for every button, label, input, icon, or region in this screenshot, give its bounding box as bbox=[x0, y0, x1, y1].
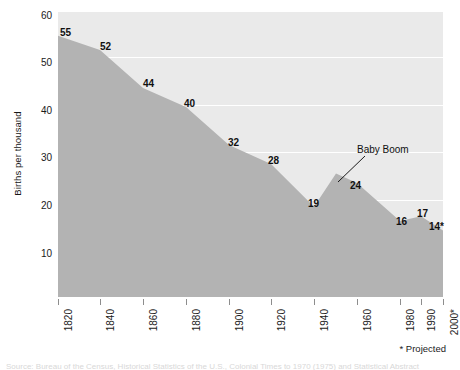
data-label-1940: 19 bbox=[308, 198, 319, 209]
data-label-1880: 40 bbox=[184, 98, 195, 109]
data-label-1920: 28 bbox=[268, 155, 279, 166]
x-tick-mark-1820 bbox=[58, 299, 59, 305]
data-label-1900: 32 bbox=[228, 137, 239, 148]
annotation-baby-boom: Baby Boom bbox=[357, 144, 409, 155]
source-note: Source: Bureau of the Census, Historical… bbox=[6, 362, 456, 370]
x-tick-mark-1960 bbox=[357, 299, 358, 305]
data-label-1840: 52 bbox=[100, 41, 111, 52]
data-label-1860: 44 bbox=[143, 78, 154, 89]
x-tick-label-1860: 1860 bbox=[148, 309, 159, 355]
x-tick-label-1960: 1960 bbox=[362, 309, 373, 355]
data-label-2000: 14* bbox=[429, 221, 444, 232]
x-tick-label-1880: 1880 bbox=[191, 309, 202, 355]
footnote-projected: * Projected bbox=[400, 343, 446, 354]
x-tick-label-2000: 2000* bbox=[449, 309, 460, 355]
x-tick-mark-2000 bbox=[443, 299, 444, 305]
x-tick-mark-1940 bbox=[314, 299, 315, 305]
x-tick-mark-1900 bbox=[229, 299, 230, 305]
data-label-1980: 16 bbox=[396, 216, 407, 227]
x-tick-label-1920: 1920 bbox=[276, 309, 287, 355]
data-label-1960: 24 bbox=[350, 180, 361, 191]
y-tick-label-60: 60 bbox=[12, 10, 52, 21]
y-tick-label-20: 20 bbox=[12, 200, 52, 211]
x-tick-mark-1980 bbox=[400, 299, 401, 305]
x-tick-mark-1990 bbox=[421, 299, 422, 305]
y-tick-label-10: 10 bbox=[12, 248, 52, 259]
x-tick-label-1940: 1940 bbox=[319, 309, 330, 355]
data-label-1820: 55 bbox=[60, 27, 71, 38]
y-tick-label-30: 30 bbox=[12, 152, 52, 163]
x-tick-mark-1860 bbox=[143, 299, 144, 305]
x-tick-label-1840: 1840 bbox=[105, 309, 116, 355]
x-tick-mark-1920 bbox=[271, 299, 272, 305]
x-tick-mark-1880 bbox=[186, 299, 187, 305]
x-tick-mark-1840 bbox=[100, 299, 101, 305]
x-tick-label-1900: 1900 bbox=[234, 309, 245, 355]
x-tick-label-1820: 1820 bbox=[63, 309, 74, 355]
y-tick-label-50: 50 bbox=[12, 57, 52, 68]
y-tick-label-40: 40 bbox=[12, 105, 52, 116]
data-label-1990: 17 bbox=[417, 208, 428, 219]
